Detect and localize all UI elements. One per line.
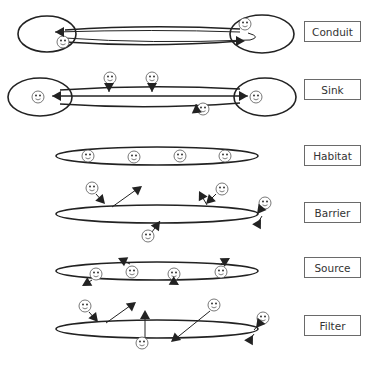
arrowhead-icon xyxy=(239,91,248,101)
arrowhead-icon xyxy=(80,277,93,290)
smiley-face-icon xyxy=(57,36,69,48)
label-sink-text: Sink xyxy=(321,84,343,96)
diagram-source xyxy=(56,253,258,290)
arrowhead-icon xyxy=(126,298,139,311)
label-barrier: Barrier xyxy=(304,202,361,223)
arrowhead-icon xyxy=(116,253,128,266)
movement-arrow xyxy=(55,31,240,33)
smiley-face-icon xyxy=(104,72,116,84)
label-conduit-text: Conduit xyxy=(312,26,353,38)
arrowhead-icon xyxy=(252,217,265,230)
habitat-patch-ellipse xyxy=(56,262,258,280)
label-source: Source xyxy=(304,257,361,278)
habitat-patch-ellipse xyxy=(56,320,258,338)
smiley-face-icon xyxy=(32,91,44,103)
smiley-face-icon xyxy=(239,18,251,30)
arrowhead-icon xyxy=(236,36,245,46)
smiley-face-icon xyxy=(219,150,231,162)
smiley-face-icon xyxy=(215,266,227,278)
corridor-edge xyxy=(60,103,240,107)
label-barrier-text: Barrier xyxy=(315,207,351,219)
smiley-face-icon xyxy=(126,266,138,278)
diagram-canvas xyxy=(0,0,377,367)
smiley-face-icon xyxy=(79,300,91,312)
arrowhead-icon xyxy=(140,310,150,319)
arrowhead-icon xyxy=(168,332,181,345)
diagram-filter xyxy=(56,298,269,349)
arrowhead-icon xyxy=(132,182,145,195)
diagram-barrier xyxy=(56,182,271,242)
diagram-sink xyxy=(8,72,296,116)
diagram-conduit xyxy=(18,15,294,53)
arrowhead-icon xyxy=(195,189,208,202)
habitat-patch-ellipse xyxy=(56,205,258,223)
arrowhead-icon xyxy=(52,91,61,101)
arrowhead-icon xyxy=(151,218,164,231)
label-conduit: Conduit xyxy=(304,21,361,42)
label-sink: Sink xyxy=(304,79,361,100)
arrowhead-icon xyxy=(55,27,64,37)
ecological-corridor-functions-diagram: Conduit Sink Habitat Barrier Source Filt… xyxy=(0,0,377,367)
smiley-face-icon xyxy=(142,230,154,242)
label-habitat-text: Habitat xyxy=(313,150,352,162)
smiley-face-icon xyxy=(86,182,98,194)
label-filter: Filter xyxy=(304,315,361,336)
smiley-face-icon xyxy=(208,299,220,311)
smiley-face-icon xyxy=(174,150,186,162)
smiley-face-icon xyxy=(82,150,94,162)
smiley-face-icon xyxy=(250,91,262,103)
smiley-face-icon xyxy=(216,183,228,195)
smiley-face-icon xyxy=(128,151,140,163)
smiley-face-icon xyxy=(136,337,148,349)
movement-arrow xyxy=(65,33,256,42)
corridor-edge xyxy=(65,27,240,30)
label-habitat: Habitat xyxy=(304,145,361,166)
label-source-text: Source xyxy=(314,262,350,274)
smiley-face-icon xyxy=(90,268,102,280)
label-filter-text: Filter xyxy=(319,320,345,332)
smiley-face-icon xyxy=(146,72,158,84)
movement-arrow xyxy=(174,311,210,340)
arrowhead-icon xyxy=(244,333,257,346)
diagram-habitat xyxy=(56,147,258,165)
